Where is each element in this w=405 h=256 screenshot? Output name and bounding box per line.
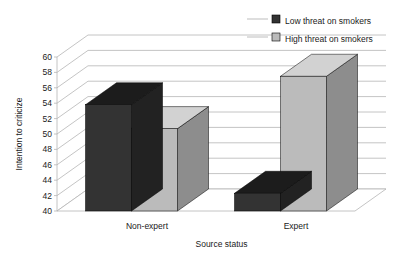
x-tick-label-1: Expert	[284, 221, 309, 231]
legend-label-0: Low threat on smokers	[285, 16, 371, 26]
legend-swatch-0	[272, 15, 280, 23]
y-tick-label: 50	[43, 129, 53, 139]
y-tick-label: 48	[43, 144, 53, 154]
y-tick-label: 52	[43, 114, 53, 124]
y-tick-label: 60	[43, 52, 53, 62]
bar-side-face	[327, 54, 358, 211]
bar-front-face	[235, 193, 281, 211]
x-axis-title: Source status	[196, 239, 248, 249]
bar-chart-3d: 4042444648505254565860Non-expertExpertSo…	[0, 0, 405, 256]
bar-non-expert-series-0	[86, 83, 163, 211]
x-tick-labels: Non-expertExpert	[126, 221, 309, 231]
y-tick-label: 46	[43, 160, 53, 170]
legend-group: Low threat on smokersHigh threat on smok…	[247, 15, 373, 44]
y-tick-label: 42	[43, 191, 53, 201]
x-tick-label-0: Non-expert	[126, 221, 169, 231]
y-tick-label: 58	[43, 67, 53, 77]
y-tick-label: 44	[43, 175, 53, 185]
y-axis-title: Intention to criticize	[14, 97, 24, 170]
y-tick-label: 40	[43, 206, 53, 216]
chart-container: 4042444648505254565860Non-expertExpertSo…	[0, 0, 405, 256]
y-tick-label: 56	[43, 83, 53, 93]
bars	[86, 54, 358, 211]
bar-front-face	[86, 105, 132, 211]
y-tick-label: 54	[43, 98, 53, 108]
bar-side-face	[132, 83, 163, 211]
legend-label-1: High threat on smokers	[285, 34, 373, 44]
y-tick-labels: 4042444648505254565860	[43, 52, 57, 216]
legend-swatch-1	[272, 33, 280, 41]
